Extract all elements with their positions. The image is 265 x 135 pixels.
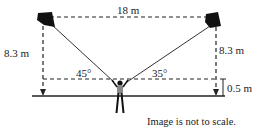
right-kite-icon — [205, 12, 221, 28]
right-arrow-icon — [213, 89, 219, 96]
right-height-label: 8.3 m — [219, 44, 245, 56]
right-kite-string — [127, 26, 210, 82]
left-arrow-icon — [40, 89, 46, 96]
person-height-label: 0.5 m — [227, 82, 253, 94]
kite-diagram: 18 m 8.3 m 8.3 m 45° 35° 0.5 m Image is … — [0, 0, 265, 135]
left-kite-icon — [37, 12, 55, 27]
right-angle-label: 35° — [152, 67, 167, 79]
left-height-label: 8.3 m — [4, 47, 30, 59]
left-angle-label: 45° — [76, 67, 91, 79]
scale-note: Image is not to scale. — [147, 116, 236, 127]
top-distance-label: 18 m — [117, 4, 140, 16]
